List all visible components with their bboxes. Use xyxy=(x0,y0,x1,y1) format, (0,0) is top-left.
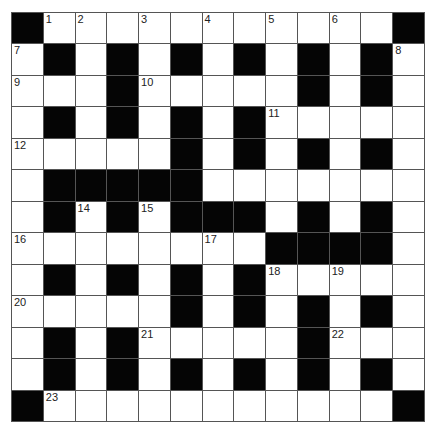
crossword-cell[interactable] xyxy=(107,233,138,263)
crossword-cell[interactable]: 4 xyxy=(203,13,234,43)
crossword-cell[interactable] xyxy=(12,328,43,358)
crossword-cell[interactable] xyxy=(234,328,265,358)
crossword-cell[interactable]: 8 xyxy=(393,44,424,74)
crossword-cell[interactable] xyxy=(139,296,170,326)
crossword-cell[interactable] xyxy=(234,170,265,200)
crossword-cell[interactable] xyxy=(107,296,138,326)
crossword-cell[interactable] xyxy=(171,391,202,421)
crossword-cell[interactable]: 17 xyxy=(203,233,234,263)
crossword-cell[interactable]: 16 xyxy=(12,233,43,263)
crossword-cell[interactable]: 20 xyxy=(12,296,43,326)
crossword-cell[interactable] xyxy=(107,391,138,421)
crossword-cell[interactable] xyxy=(76,265,107,295)
crossword-cell[interactable]: 6 xyxy=(330,13,361,43)
crossword-cell[interactable] xyxy=(393,265,424,295)
crossword-cell[interactable] xyxy=(298,170,329,200)
crossword-cell[interactable] xyxy=(139,359,170,389)
crossword-cell[interactable]: 5 xyxy=(266,13,297,43)
crossword-cell[interactable]: 23 xyxy=(44,391,75,421)
crossword-cell[interactable] xyxy=(330,76,361,106)
crossword-cell[interactable] xyxy=(393,296,424,326)
crossword-cell[interactable] xyxy=(266,391,297,421)
crossword-cell[interactable] xyxy=(44,139,75,169)
crossword-cell[interactable] xyxy=(234,76,265,106)
crossword-cell[interactable] xyxy=(76,328,107,358)
crossword-cell[interactable]: 22 xyxy=(330,328,361,358)
crossword-cell[interactable]: 19 xyxy=(330,265,361,295)
crossword-cell[interactable] xyxy=(203,328,234,358)
crossword-cell[interactable] xyxy=(234,233,265,263)
crossword-cell[interactable] xyxy=(12,170,43,200)
crossword-cell[interactable] xyxy=(234,391,265,421)
crossword-cell[interactable]: 3 xyxy=(139,13,170,43)
crossword-cell[interactable] xyxy=(361,265,392,295)
crossword-cell[interactable] xyxy=(139,139,170,169)
crossword-cell[interactable]: 1 xyxy=(44,13,75,43)
crossword-cell[interactable] xyxy=(298,391,329,421)
crossword-cell[interactable]: 15 xyxy=(139,202,170,232)
crossword-cell[interactable] xyxy=(76,233,107,263)
crossword-cell[interactable]: 9 xyxy=(12,76,43,106)
crossword-cell[interactable] xyxy=(139,233,170,263)
crossword-cell[interactable] xyxy=(139,391,170,421)
crossword-cell[interactable] xyxy=(298,107,329,137)
crossword-cell[interactable] xyxy=(12,359,43,389)
crossword-cell[interactable] xyxy=(76,296,107,326)
crossword-cell[interactable]: 7 xyxy=(12,44,43,74)
crossword-cell[interactable] xyxy=(266,139,297,169)
crossword-cell[interactable] xyxy=(361,328,392,358)
crossword-cell[interactable] xyxy=(330,296,361,326)
crossword-cell[interactable] xyxy=(298,13,329,43)
crossword-cell[interactable] xyxy=(393,328,424,358)
crossword-cell[interactable] xyxy=(266,328,297,358)
crossword-cell[interactable] xyxy=(171,76,202,106)
crossword-cell[interactable] xyxy=(393,139,424,169)
crossword-cell[interactable] xyxy=(203,265,234,295)
crossword-cell[interactable] xyxy=(76,44,107,74)
crossword-cell[interactable]: 14 xyxy=(76,202,107,232)
crossword-cell[interactable] xyxy=(12,265,43,295)
crossword-cell[interactable] xyxy=(203,170,234,200)
crossword-cell[interactable] xyxy=(76,107,107,137)
crossword-cell[interactable] xyxy=(139,44,170,74)
crossword-cell[interactable] xyxy=(361,13,392,43)
crossword-cell[interactable] xyxy=(361,391,392,421)
crossword-cell[interactable] xyxy=(393,107,424,137)
crossword-cell[interactable] xyxy=(203,76,234,106)
crossword-cell[interactable] xyxy=(76,139,107,169)
crossword-cell[interactable] xyxy=(266,170,297,200)
crossword-cell[interactable] xyxy=(171,233,202,263)
crossword-cell[interactable] xyxy=(139,265,170,295)
crossword-cell[interactable]: 12 xyxy=(12,139,43,169)
crossword-cell[interactable] xyxy=(76,76,107,106)
crossword-cell[interactable] xyxy=(393,76,424,106)
crossword-cell[interactable] xyxy=(266,296,297,326)
crossword-cell[interactable] xyxy=(203,391,234,421)
crossword-cell[interactable] xyxy=(393,202,424,232)
crossword-cell[interactable] xyxy=(44,76,75,106)
crossword-cell[interactable] xyxy=(298,265,329,295)
crossword-cell[interactable] xyxy=(44,296,75,326)
crossword-cell[interactable] xyxy=(266,76,297,106)
crossword-cell[interactable] xyxy=(203,296,234,326)
crossword-cell[interactable] xyxy=(76,391,107,421)
crossword-cell[interactable] xyxy=(361,170,392,200)
crossword-cell[interactable] xyxy=(266,202,297,232)
crossword-cell[interactable] xyxy=(361,107,392,137)
crossword-cell[interactable] xyxy=(171,13,202,43)
crossword-cell[interactable] xyxy=(203,107,234,137)
crossword-cell[interactable] xyxy=(203,139,234,169)
crossword-cell[interactable] xyxy=(139,107,170,137)
crossword-cell[interactable] xyxy=(203,359,234,389)
crossword-cell[interactable]: 2 xyxy=(76,13,107,43)
crossword-cell[interactable] xyxy=(266,359,297,389)
crossword-cell[interactable] xyxy=(393,170,424,200)
crossword-cell[interactable] xyxy=(107,13,138,43)
crossword-cell[interactable] xyxy=(12,202,43,232)
crossword-cell[interactable] xyxy=(393,359,424,389)
crossword-cell[interactable] xyxy=(330,202,361,232)
crossword-cell[interactable] xyxy=(203,44,234,74)
crossword-cell[interactable] xyxy=(12,107,43,137)
crossword-cell[interactable] xyxy=(330,359,361,389)
crossword-cell[interactable] xyxy=(330,44,361,74)
